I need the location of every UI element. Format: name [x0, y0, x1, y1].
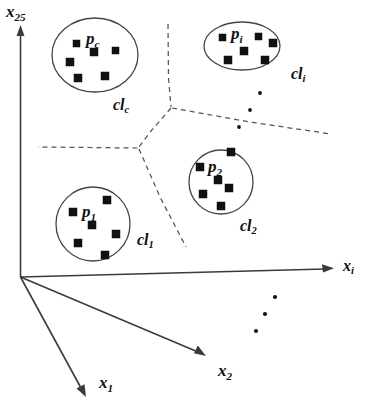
ellipsis-clusters	[237, 91, 262, 129]
ellipsis-dot	[237, 125, 241, 129]
cluster-label-cl1: cl1	[137, 232, 154, 248]
point-label-pc: pc	[86, 30, 99, 47]
axis-label-xi-base: x	[343, 257, 351, 274]
cluster-label-cli-base: cl	[291, 65, 303, 82]
axis-arrow-x25	[17, 25, 25, 36]
data-point	[73, 40, 80, 47]
boundary-top-vertical	[168, 24, 171, 107]
cluster-label-clc-sub: c	[125, 104, 130, 115]
data-point	[101, 251, 109, 259]
ellipsis-dot	[263, 312, 267, 316]
boundary-left-horizontal	[38, 147, 138, 148]
cluster-label-clc: clc	[113, 97, 129, 113]
data-point	[240, 47, 248, 55]
data-point	[217, 202, 225, 210]
cluster-cl-1	[56, 187, 130, 261]
data-point	[269, 39, 277, 47]
axis-label-xi-sub: i	[351, 265, 354, 276]
data-point	[74, 239, 82, 247]
data-point	[199, 190, 207, 198]
data-point	[112, 47, 119, 54]
ellipsis-axes	[254, 295, 277, 333]
data-point	[112, 230, 120, 238]
point-label-p1: p1	[82, 203, 96, 220]
cluster-label-cl2: cl2	[240, 218, 257, 234]
point-label-p2: p2	[208, 158, 222, 175]
diagram-canvas	[0, 0, 367, 403]
cluster-space-diagram: x25 xi x2 x1 pc pi p2 p1 clc cli cl2 cl1	[0, 0, 367, 403]
axis-line-x2	[21, 277, 199, 352]
axis-label-x1-sub: 1	[108, 382, 114, 394]
boundary-right-branch	[172, 108, 331, 134]
cluster-label-cli: cli	[291, 66, 305, 82]
axis-line-x1	[21, 277, 82, 388]
ellipsis-dot	[248, 108, 252, 112]
point-label-pi: pi	[231, 25, 243, 42]
cluster-label-cl2-sub: 2	[252, 225, 257, 236]
axis-label-x25-sub: 25	[15, 11, 26, 23]
data-point	[255, 33, 262, 40]
point-label-pi-sub: i	[240, 33, 243, 45]
boundary-mid-diagonal	[139, 108, 171, 147]
point-label-p1-sub: 1	[91, 211, 97, 223]
point-label-p1-base: p	[82, 202, 91, 221]
axis-label-xi: xi	[343, 258, 354, 274]
data-point	[196, 163, 204, 171]
point-label-pc-base: p	[86, 29, 95, 48]
data-point	[74, 74, 82, 82]
point-label-p2-base: p	[208, 157, 217, 176]
cluster-label-cl1-sub: 1	[149, 239, 154, 250]
axis-arrow-x1	[77, 384, 87, 397]
axis-label-x25-base: x	[6, 2, 15, 21]
cluster-label-cl1-base: cl	[137, 231, 149, 248]
point-label-pi-base: p	[231, 24, 240, 43]
data-point	[66, 58, 74, 66]
data-point	[69, 208, 77, 216]
data-point	[103, 196, 111, 204]
data-point	[261, 56, 269, 64]
axis-label-x1: x1	[99, 374, 113, 391]
axis-arrow-x2	[194, 345, 206, 356]
data-point	[224, 56, 232, 64]
axis-label-x25: x25	[6, 3, 26, 20]
axis-label-x2: x2	[218, 362, 232, 379]
axis-line-xi	[21, 269, 326, 277]
axis-arrow-xi	[322, 264, 334, 272]
ellipsis-dot	[258, 91, 262, 95]
cluster-label-cl2-base: cl	[240, 217, 252, 234]
cluster-label-clc-base: cl	[113, 96, 125, 113]
data-point	[219, 34, 226, 41]
data-point	[225, 184, 233, 192]
data-point	[101, 72, 109, 80]
ellipsis-dot	[273, 295, 277, 299]
data-point	[227, 148, 235, 156]
point-label-pc-sub: c	[95, 38, 100, 50]
ellipsis-dot	[254, 329, 258, 333]
axis-label-x2-sub: 2	[227, 370, 233, 382]
axis-label-x2-base: x	[218, 361, 227, 380]
axis-label-x1-base: x	[99, 373, 108, 392]
point-label-p2-sub: 2	[217, 166, 223, 178]
